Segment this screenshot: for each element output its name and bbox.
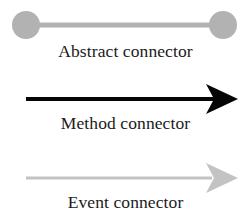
legend-item-event: Event connector bbox=[0, 152, 251, 224]
connector-legend-figure: Abstract connector Method connector Even… bbox=[0, 0, 251, 224]
event-connector-label: Event connector bbox=[0, 192, 251, 212]
abstract-connector-icon bbox=[0, 4, 251, 44]
abstract-connector-endpoint-right bbox=[209, 11, 237, 39]
method-connector-label: Method connector bbox=[0, 113, 251, 133]
legend-item-abstract: Abstract connector bbox=[0, 0, 251, 70]
abstract-connector-endpoint-left bbox=[12, 11, 40, 39]
legend-item-method: Method connector bbox=[0, 76, 251, 146]
abstract-connector-label: Abstract connector bbox=[0, 41, 251, 61]
